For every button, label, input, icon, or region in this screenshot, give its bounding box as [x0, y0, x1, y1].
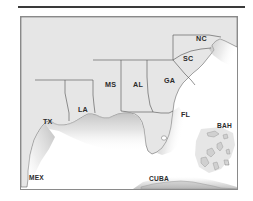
label-la: LA	[78, 105, 88, 114]
label-nc: NC	[196, 34, 207, 43]
map-figure: TX LA MS AL GA SC NC FL BAH MEX CUBA	[20, 16, 238, 190]
inland-water-group	[161, 136, 166, 140]
label-sc: SC	[183, 54, 193, 63]
label-al: AL	[133, 80, 143, 89]
label-cuba: CUBA	[149, 175, 169, 182]
label-bah: BAH	[217, 122, 232, 129]
label-ga: GA	[164, 76, 175, 85]
top-horizontal-rule	[18, 6, 245, 8]
page-root: TX LA MS AL GA SC NC FL BAH MEX CUBA	[0, 0, 253, 201]
label-fl: FL	[181, 110, 191, 119]
label-tx: TX	[43, 117, 53, 126]
label-mex: MEX	[29, 174, 44, 181]
lake-okeechobee	[161, 136, 166, 140]
southeast-us-map: TX LA MS AL GA SC NC FL BAH MEX CUBA	[21, 17, 237, 189]
label-ms: MS	[105, 80, 116, 89]
